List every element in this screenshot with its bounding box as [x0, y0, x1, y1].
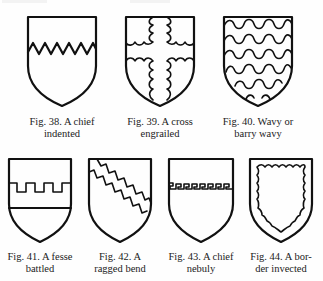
caption-fig-38: Fig. 38. A chief indented: [12, 116, 112, 139]
cropped-text-fragment: [130, 0, 170, 3]
cropped-text-fragment: [2, 0, 47, 3]
caption-line: Fig. 38. A chief: [12, 116, 112, 128]
shield-fig-38-chief-indented: [26, 16, 98, 108]
caption-fig-44: Fig. 44. A bor- der invected: [233, 251, 323, 274]
caption-line: Fig. 40. Wavy or: [208, 116, 308, 128]
shield-fig-40-barry-wavy: [222, 16, 294, 108]
book-page: Fig. 38. A chief indented Fig. 39. A cro…: [0, 0, 323, 281]
caption-line: der invected: [233, 263, 323, 275]
caption-fig-39: Fig. 39. A cross engrailed: [110, 116, 210, 139]
caption-line: engrailed: [110, 128, 210, 140]
shield-fig-43-chief-nebuly: [167, 158, 235, 244]
caption-line: barry wavy: [208, 128, 308, 140]
shield-fig-41-fesse-battled: [7, 158, 73, 244]
shield-fig-44-border-invected: [248, 158, 314, 244]
shield-fig-42-ragged-bend: [87, 158, 153, 244]
caption-fig-40: Fig. 40. Wavy or barry wavy: [208, 116, 308, 139]
shield-fig-39-cross-engrailed: [124, 16, 196, 108]
caption-line: indented: [12, 128, 112, 140]
caption-line: Fig. 39. A cross: [110, 116, 210, 128]
caption-line: Fig. 44. A bor-: [233, 251, 323, 263]
